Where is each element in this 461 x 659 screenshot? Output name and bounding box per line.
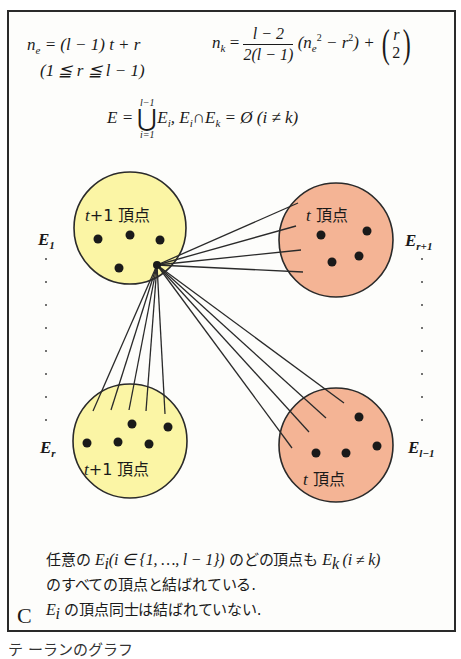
caption-text: 頂点 [308, 470, 345, 489]
label-symbol: E [38, 230, 49, 249]
caption-text: 頂点 [311, 206, 348, 225]
desc-Ek: E [322, 551, 332, 568]
desc-text: のどの頂点も [224, 551, 322, 569]
set-E1-circle [74, 172, 186, 284]
description-line-1: 任意の Ei(i ∈ {1, …, l − 1}) のどの頂点も Ek (i ≠… [46, 548, 380, 573]
label-subscript: r+1 [416, 240, 432, 252]
desc-text: 任意の [46, 551, 95, 569]
label-subscript: 1 [49, 239, 55, 251]
desc-text: の頂点同士は結ばれていない. [60, 601, 262, 619]
set-El1-caption: t 頂点 [303, 466, 345, 490]
desc-index-set: (i ∈ {1, …, l − 1}) [109, 551, 225, 568]
right-ellipsis-dots [421, 258, 425, 442]
caption-text: +1 頂点 [90, 206, 151, 225]
set-Er1-circle [279, 183, 393, 297]
left-ellipsis-dots [45, 258, 49, 442]
figure-caption-cut: テ ーランのグラフ [8, 638, 133, 659]
panel-mark: C [17, 603, 32, 629]
desc-Ei: E [95, 551, 105, 568]
desc-Ei: E [46, 601, 56, 618]
desc-Ek-subscript: k [332, 555, 339, 572]
set-E1-caption: t+1 頂点 [85, 202, 150, 226]
label-symbol: E [405, 231, 416, 250]
set-Er-caption: t+1 頂点 [84, 456, 149, 480]
label-symbol: E [408, 438, 419, 457]
description-line-3: Ei の頂点同士は結ばれていない. [46, 598, 261, 623]
description-line-2: のすべての頂点と結ばれている. [46, 573, 256, 594]
desc-condition: (i ≠ k) [339, 551, 380, 568]
label-subscript: l−1 [419, 447, 434, 459]
caption-text: +1 頂点 [89, 460, 150, 479]
label-Er1: Er+1 [405, 231, 432, 252]
label-E1: E1 [38, 230, 55, 251]
desc-text: のすべての頂点と結ばれている. [46, 576, 256, 594]
label-subscript: r [51, 447, 55, 459]
set-Er1-caption: t 頂点 [306, 202, 348, 226]
